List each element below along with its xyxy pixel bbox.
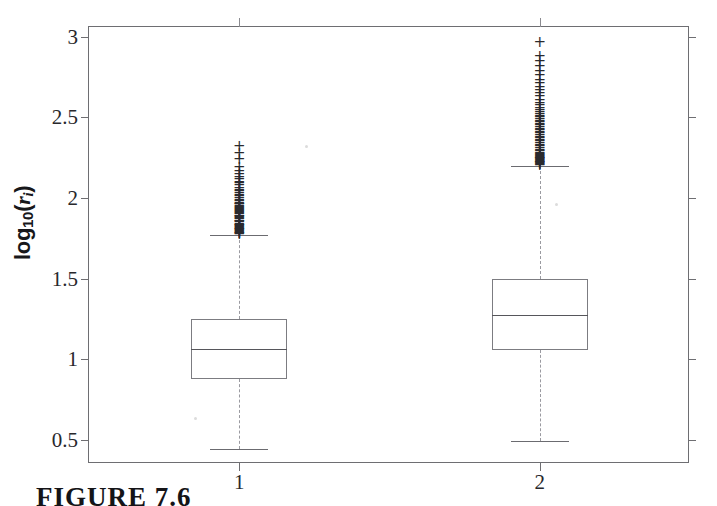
- y-axis-title-close-paren: ): [10, 186, 35, 193]
- y-axis-title-base: 10: [19, 212, 36, 228]
- scan-speck: [194, 417, 197, 420]
- y-tick-label: 1: [68, 349, 79, 370]
- boxplot-figure: log10(ri) 0.511.522.5312 +++++++++++++++…: [0, 0, 717, 506]
- y-tick-mark: [81, 198, 89, 199]
- whisker-lower: [540, 350, 541, 441]
- y-tick-label: 2: [68, 187, 79, 208]
- y-tick-mark: [81, 359, 89, 360]
- y-tick-mark: [81, 117, 89, 118]
- whisker-upper: [540, 166, 541, 279]
- outlier-marker: +: [533, 49, 546, 64]
- plot-area: 0.511.522.5312 +++++++++++++++++++++++++…: [88, 26, 689, 463]
- y-axis-title: log10(ri): [12, 186, 36, 260]
- x-tick-mark-top: [239, 18, 240, 27]
- boxplot-group-2: ++++++++++++++++++++++++++++++++++++++++…: [89, 27, 690, 462]
- y-tick-label: 1.5: [52, 268, 78, 289]
- y-tick-label: 0.5: [52, 429, 78, 450]
- whisker-cap-lower: [511, 441, 569, 442]
- scan-speck: [305, 145, 308, 148]
- y-tick-mark: [81, 279, 89, 280]
- y-axis-title-log: log: [10, 228, 35, 260]
- median-line: [492, 315, 588, 316]
- y-tick-label: 3: [68, 26, 79, 47]
- x-tick-label: 2: [535, 472, 546, 493]
- y-axis-title-variable-sub: i: [20, 193, 36, 197]
- y-axis-title-open-paren: (: [10, 205, 35, 212]
- y-tick-mark: [81, 440, 89, 441]
- y-tick-label: 2.5: [52, 107, 78, 128]
- x-tick-label: 1: [234, 472, 245, 493]
- figure-caption: FIGURE 7.6: [36, 482, 192, 506]
- outlier-marker: +: [533, 34, 546, 49]
- x-tick-mark-top: [540, 18, 541, 27]
- scan-speck: [555, 203, 558, 206]
- y-tick-mark: [81, 37, 89, 38]
- y-axis-title-variable: r: [10, 197, 35, 205]
